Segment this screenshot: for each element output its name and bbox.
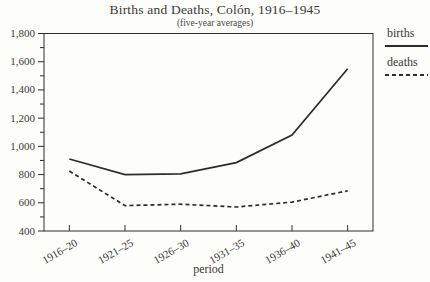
y-tick-label: 800 [19,168,36,180]
legend-label-deaths: deaths [384,56,430,69]
deaths-dashed-line-swatch [385,74,428,76]
legend: births deaths [384,27,430,76]
y-tick-label: 600 [19,196,36,208]
y-tick-label: 400 [19,225,36,237]
legend-label-births: births [384,27,430,40]
legend-item-deaths: deaths [384,56,430,76]
deaths-line [69,171,347,207]
x-axis-title: period [0,262,417,277]
births-solid-line-swatch [385,45,428,47]
y-tick-label: 1,000 [10,140,35,152]
y-tick-label: 1,200 [10,112,35,124]
plot-area: 4006008001,0001,2001,4001,6001,8001916–2… [0,0,430,282]
legend-item-births: births [384,27,430,47]
y-tick-label: 1,400 [10,83,35,95]
plot-border [44,34,373,232]
births-line [69,69,347,175]
chart-figure: Births and Deaths, Colón, 1916–1945 (fiv… [0,0,430,282]
y-tick-label: 1,800 [10,27,35,39]
y-tick-label: 1,600 [10,55,35,67]
